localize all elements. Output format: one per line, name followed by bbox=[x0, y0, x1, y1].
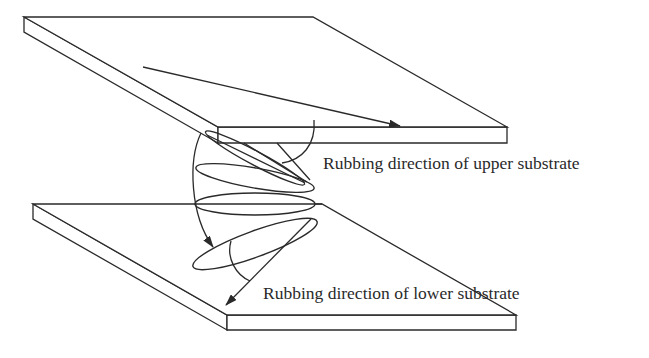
lower-substrate bbox=[33, 204, 516, 330]
lc-cell-diagram: Rubbing direction of upper substrate Rub… bbox=[0, 0, 649, 358]
lc-molecule-upper-2 bbox=[194, 158, 316, 199]
lower-substrate-front-edge bbox=[227, 315, 516, 330]
lower-rubbing-label: Rubbing direction of lower substrate bbox=[263, 283, 520, 303]
upper-rubbing-label: Rubbing direction of upper substrate bbox=[323, 153, 580, 173]
upper-substrate-front-edge bbox=[218, 127, 507, 143]
upper-substrate bbox=[24, 17, 507, 143]
